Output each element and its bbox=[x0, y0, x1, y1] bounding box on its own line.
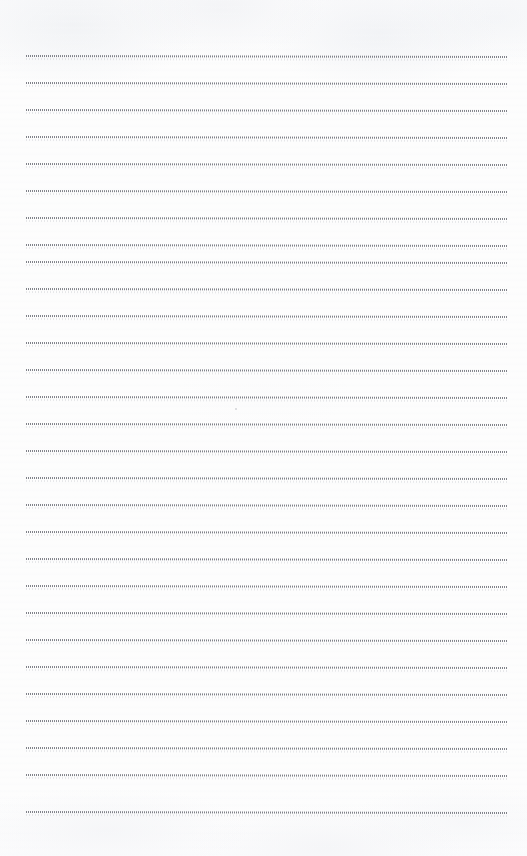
ruled-line bbox=[26, 720, 507, 723]
ruled-line bbox=[26, 747, 507, 750]
ruled-line bbox=[26, 558, 507, 561]
scan-speck bbox=[235, 408, 237, 410]
ruled-line bbox=[26, 612, 507, 615]
ruled-line bbox=[26, 369, 507, 372]
ruled-line bbox=[26, 396, 507, 399]
ruled-line bbox=[26, 585, 507, 588]
ruled-line bbox=[26, 423, 507, 426]
ruled-line bbox=[26, 109, 507, 112]
ruled-line bbox=[26, 666, 507, 669]
ruled-line bbox=[26, 477, 507, 480]
ruled-line bbox=[26, 693, 507, 696]
ruled-line bbox=[26, 190, 507, 193]
ruled-line bbox=[26, 774, 507, 777]
ruled-line bbox=[26, 811, 507, 814]
ruled-line bbox=[26, 450, 507, 453]
ruled-line bbox=[26, 531, 507, 534]
ruled-line bbox=[26, 315, 507, 318]
ruled-line bbox=[26, 82, 507, 85]
ruled-line bbox=[26, 342, 507, 345]
scanned-page bbox=[0, 0, 527, 856]
ruled-line bbox=[26, 261, 507, 264]
ruled-line bbox=[26, 136, 507, 139]
ruled-line bbox=[26, 163, 507, 166]
ruled-line bbox=[26, 504, 507, 507]
ruled-line bbox=[26, 55, 507, 58]
ruled-line bbox=[26, 639, 507, 642]
ruled-line bbox=[26, 244, 507, 247]
ruled-line bbox=[26, 217, 507, 220]
ruled-lines-group bbox=[0, 0, 527, 856]
ruled-line bbox=[26, 288, 507, 291]
